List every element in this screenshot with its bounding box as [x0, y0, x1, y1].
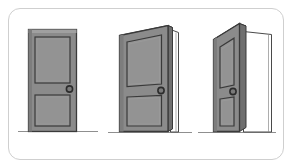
doorknob-open: [230, 88, 236, 94]
door-hinge-stile-closed: [29, 30, 33, 132]
door-top-rail-closed: [29, 30, 77, 34]
doorknob-closed: [66, 86, 72, 92]
door-illustration-svg: [0, 0, 292, 168]
door-closed: [18, 30, 98, 132]
door-frame-open: [244, 32, 272, 133]
door-ajar: [108, 26, 192, 133]
door-sequence-figure: [0, 0, 292, 168]
door-open: [198, 24, 276, 133]
door-latch-edge-ajar: [168, 26, 173, 132]
doorknob-ajar: [158, 87, 164, 93]
door-hinge-stile-ajar: [120, 35, 124, 132]
door-latch-edge-open: [240, 24, 247, 132]
door-panel-upper-closed: [35, 37, 70, 83]
door-panel-lower-closed: [35, 95, 70, 126]
door-hinge-stile-open: [214, 37, 218, 131]
illustration-stage: [0, 0, 292, 168]
door-panel-upper-ajar: [127, 35, 162, 87]
door-panel-lower-ajar: [127, 96, 162, 127]
